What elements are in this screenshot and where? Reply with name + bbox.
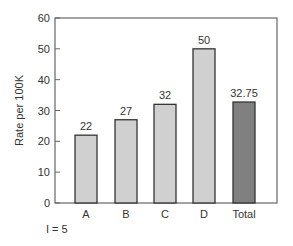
y-tick-label: 50	[38, 43, 50, 55]
y-tick-label: 10	[38, 166, 50, 178]
footnote: I = 5	[46, 223, 68, 235]
y-tick-label: 0	[44, 197, 50, 209]
y-tick-label: 40	[38, 74, 50, 86]
y-tick-label: 30	[38, 105, 50, 117]
bar-c	[154, 104, 176, 203]
x-tick-label: D	[200, 208, 208, 220]
data-label: 50	[198, 34, 210, 46]
bar-total	[233, 102, 255, 203]
bar-d	[193, 49, 215, 203]
y-axis-label: Rate per 100K	[13, 74, 25, 146]
data-label: 27	[120, 105, 132, 117]
x-tick-label: A	[82, 208, 90, 220]
bar-a	[75, 135, 97, 203]
bar-chart: 0102030405060Rate per 100K22A27B32C50D32…	[0, 0, 293, 246]
data-label: 32	[159, 89, 171, 101]
x-tick-label: B	[122, 208, 129, 220]
y-tick-label: 20	[38, 135, 50, 147]
x-tick-label: C	[161, 208, 169, 220]
bar-b	[115, 120, 137, 203]
y-tick-label: 60	[38, 12, 50, 24]
x-tick-label: Total	[232, 208, 255, 220]
data-label: 22	[80, 120, 92, 132]
data-label: 32.75	[230, 87, 258, 99]
